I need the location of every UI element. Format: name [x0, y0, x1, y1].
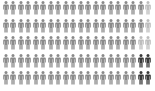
person-icon — [47, 54, 55, 69]
person-icon — [47, 19, 55, 34]
person-icon — [122, 54, 130, 69]
person-icon — [70, 1, 78, 16]
person-icon — [47, 1, 55, 16]
person-icon — [2, 36, 10, 51]
person-icon — [115, 36, 123, 51]
person-icon — [137, 71, 145, 86]
person-icon — [70, 54, 78, 69]
person-icon — [25, 71, 33, 86]
person-icon — [32, 54, 40, 69]
person-icon — [92, 36, 100, 51]
person-icon — [137, 54, 145, 69]
person-icon — [130, 1, 138, 16]
person-icon — [130, 71, 138, 86]
person-icon — [145, 19, 153, 34]
person-icon — [85, 54, 93, 69]
person-icon — [25, 1, 33, 16]
person-icon — [10, 71, 18, 86]
person-icon — [40, 1, 48, 16]
person-icon — [122, 1, 130, 16]
person-icon — [77, 71, 85, 86]
person-icon — [100, 71, 108, 86]
person-icon — [122, 19, 130, 34]
person-icon — [32, 19, 40, 34]
person-icon — [115, 71, 123, 86]
person-icon — [40, 19, 48, 34]
person-icon — [100, 36, 108, 51]
person-icon — [122, 36, 130, 51]
person-icon — [55, 36, 63, 51]
person-icon — [2, 1, 10, 16]
pictogram-row — [2, 1, 152, 16]
pictogram-row — [2, 36, 152, 51]
person-icon — [17, 54, 25, 69]
person-icon — [107, 71, 115, 86]
person-icon — [17, 1, 25, 16]
person-icon — [2, 71, 10, 86]
person-icon — [77, 1, 85, 16]
person-icon — [62, 1, 70, 16]
person-icon — [100, 54, 108, 69]
pictogram-chart — [0, 0, 155, 91]
person-icon — [145, 1, 153, 16]
person-icon — [47, 71, 55, 86]
person-icon — [55, 19, 63, 34]
person-icon — [145, 36, 153, 51]
person-icon — [25, 19, 33, 34]
person-icon — [62, 19, 70, 34]
person-icon — [62, 54, 70, 69]
person-icon — [137, 36, 145, 51]
person-icon — [137, 19, 145, 34]
person-icon — [115, 1, 123, 16]
person-icon — [62, 71, 70, 86]
person-icon — [85, 71, 93, 86]
person-icon — [10, 19, 18, 34]
person-icon — [25, 36, 33, 51]
person-icon — [25, 54, 33, 69]
pictogram-row — [2, 19, 152, 34]
person-icon — [32, 36, 40, 51]
person-icon — [70, 71, 78, 86]
person-icon — [130, 54, 138, 69]
person-icon — [145, 54, 153, 69]
person-icon — [85, 1, 93, 16]
person-icon — [85, 36, 93, 51]
person-icon — [107, 36, 115, 51]
person-icon — [10, 1, 18, 16]
person-icon — [107, 54, 115, 69]
person-icon — [92, 54, 100, 69]
person-icon — [10, 36, 18, 51]
person-icon — [85, 19, 93, 34]
person-icon — [62, 36, 70, 51]
person-icon — [32, 71, 40, 86]
person-icon — [40, 36, 48, 51]
person-icon — [115, 19, 123, 34]
person-icon — [17, 36, 25, 51]
person-icon — [10, 54, 18, 69]
person-icon — [55, 71, 63, 86]
person-icon — [100, 1, 108, 16]
pictogram-row — [2, 71, 152, 86]
person-icon — [2, 19, 10, 34]
person-icon — [122, 71, 130, 86]
person-icon — [130, 19, 138, 34]
person-icon — [77, 54, 85, 69]
person-icon — [137, 1, 145, 16]
person-icon — [40, 54, 48, 69]
person-icon — [92, 1, 100, 16]
person-icon — [47, 36, 55, 51]
person-icon — [77, 19, 85, 34]
person-icon — [92, 71, 100, 86]
person-icon — [77, 36, 85, 51]
person-icon — [107, 19, 115, 34]
pictogram-row — [2, 54, 152, 69]
person-icon — [107, 1, 115, 16]
person-icon — [40, 71, 48, 86]
person-icon — [70, 36, 78, 51]
person-icon — [32, 1, 40, 16]
person-icon — [17, 71, 25, 86]
person-icon — [130, 36, 138, 51]
person-icon — [70, 19, 78, 34]
person-icon — [2, 54, 10, 69]
person-icon — [55, 1, 63, 16]
